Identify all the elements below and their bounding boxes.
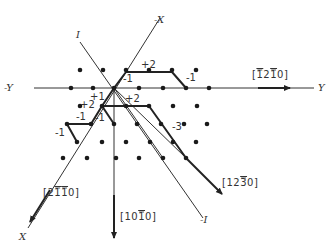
lattice-point [184, 86, 189, 91]
diagram-canvas: Y-YX-XI-I+2-1-1+1+2+2-1-1-1-3[1210][2110… [0, 0, 334, 251]
lattice-point [170, 68, 175, 73]
lattice-point [194, 140, 199, 145]
direction-label: [1210] [252, 69, 288, 80]
lattice-point [159, 122, 164, 127]
axis-label-x: X [18, 231, 27, 242]
lattice-point [182, 122, 187, 127]
lattice-diagram: Y-YX-XI-I+2-1-1+1+2+2-1-1-1-3[1210][2110… [0, 0, 334, 251]
lattice-point [135, 122, 140, 127]
axis-label-neg-x: -X [154, 14, 165, 25]
lattice-point [124, 104, 129, 109]
step-label: -1 [55, 127, 65, 138]
lattice-point [147, 104, 152, 109]
step-label: -1 [186, 72, 196, 83]
lattice-point [137, 156, 142, 161]
direction-label-text: [2110] [43, 187, 79, 198]
axis-label-neg-y: -Y [4, 82, 14, 93]
lattice-point [112, 86, 117, 91]
lattice-point [124, 68, 129, 73]
lattice-point [75, 140, 80, 145]
lattice-point [184, 156, 189, 161]
lattice-point [171, 140, 176, 145]
lattice-point [100, 140, 105, 145]
lattice-point [137, 86, 142, 91]
step-label: +2 [141, 59, 156, 70]
lattice-point [124, 140, 129, 145]
direction-label-text: [1230] [222, 177, 258, 188]
lattice-point [195, 104, 200, 109]
direction-label-text: [1210] [252, 69, 288, 80]
lattice-point [89, 122, 94, 127]
lattice-point [205, 122, 210, 127]
step-label: -1 [76, 111, 86, 122]
direction-label-text: [1010] [120, 211, 156, 222]
lattice-point [171, 104, 176, 109]
axis-label-neg-i: -I [200, 214, 208, 225]
axis-label-y: Y [318, 82, 326, 93]
lattice-point [101, 68, 106, 73]
lattice-point [207, 86, 212, 91]
step-label: -1 [95, 112, 105, 123]
lattice-point [161, 156, 166, 161]
lattice-point [148, 140, 153, 145]
direction-label: [1010] [120, 211, 156, 222]
lattice-point [69, 86, 74, 91]
lattice-point [61, 156, 66, 161]
lattice-point [161, 86, 166, 91]
arrow-1-2-3-0 [186, 158, 222, 194]
direction-label: [2110] [43, 187, 79, 198]
lattice-point [100, 104, 105, 109]
step-label: +2 [125, 93, 140, 104]
lattice-point [114, 156, 119, 161]
lattice-point [112, 122, 117, 127]
lattice-point [91, 86, 96, 91]
lattice-point [78, 68, 83, 73]
step-label: +2 [80, 99, 95, 110]
lattice-point [65, 122, 70, 127]
axis-label-i: I [75, 29, 81, 40]
step-label: -1 [123, 73, 133, 84]
lattice-point [85, 156, 90, 161]
step-label: -3 [172, 121, 182, 132]
direction-label: [1230] [222, 177, 258, 188]
